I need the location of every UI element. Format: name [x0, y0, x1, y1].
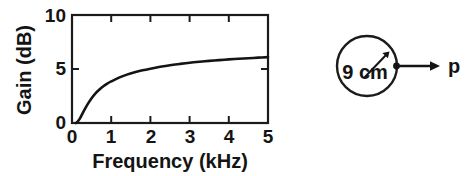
pressure-label: p — [448, 55, 460, 77]
x-tick-label-0: 0 — [67, 126, 78, 147]
y-axis-title: Gain (dB) — [13, 25, 35, 115]
x-tick-label-3: 3 — [185, 126, 196, 147]
x-tick-label-5: 5 — [263, 126, 274, 147]
gain-curve — [76, 57, 268, 123]
x-tick-labels: 0 1 2 3 4 5 — [67, 126, 274, 147]
x-axis-title: Frequency (kHz) — [92, 150, 248, 172]
diagram-svg: 9 cm p — [290, 0, 470, 176]
x-tick-label-2: 2 — [146, 126, 157, 147]
x-tick-label-1: 1 — [106, 126, 117, 147]
y-tick-labels: 0 5 10 — [45, 5, 67, 133]
chart-svg: Gain (dB) 0 5 10 0 1 2 3 4 5 — [0, 0, 290, 176]
gain-frequency-chart: Gain (dB) 0 5 10 0 1 2 3 4 5 — [0, 0, 290, 176]
piston-diagram: 9 cm p — [290, 0, 470, 176]
x-tick-label-4: 4 — [224, 126, 235, 147]
radius-label: 9 cm — [342, 61, 388, 83]
pressure-arrow-head — [430, 61, 440, 71]
tick-marks — [72, 15, 268, 123]
pressure-arrow — [397, 61, 441, 71]
y-tick-label-10: 10 — [45, 5, 66, 26]
figure-root: Gain (dB) 0 5 10 0 1 2 3 4 5 — [0, 0, 470, 176]
plot-frame — [72, 15, 268, 123]
y-tick-label-0: 0 — [55, 112, 66, 133]
y-tick-label-5: 5 — [55, 58, 66, 79]
